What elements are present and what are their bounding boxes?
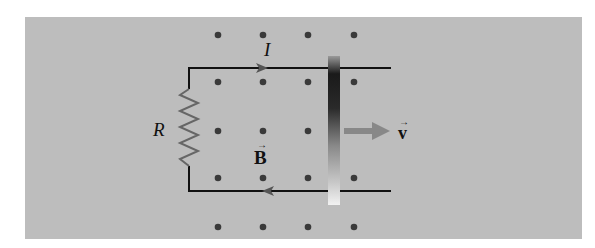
resistor-icon [180, 89, 198, 166]
current-label: I [264, 39, 270, 61]
velocity-arrow-icon [344, 122, 390, 140]
sliding-rod [328, 56, 340, 205]
resistor-label: R [153, 119, 165, 141]
circuit-diagram [0, 0, 595, 248]
